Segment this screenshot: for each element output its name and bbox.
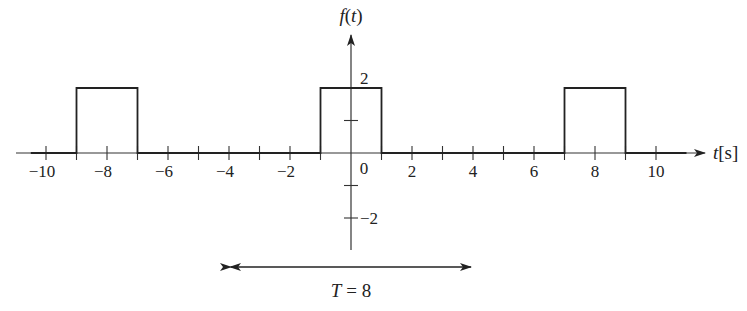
x-axis-label: t[s] <box>713 142 738 163</box>
x-tick-label: 10 <box>648 162 665 181</box>
x-axis-ticks: −10−8−6−4−22468100 <box>29 146 665 181</box>
x-tick-label: 8 <box>591 162 600 181</box>
origin-label: 0 <box>360 159 369 178</box>
x-tick-label: −10 <box>29 162 56 181</box>
x-tick-label: 4 <box>469 162 478 181</box>
x-tick-label: 6 <box>530 162 539 181</box>
y-axis-ticks: 2−2 <box>344 69 378 228</box>
x-tick-label: −2 <box>277 162 295 181</box>
pulse-train-chart: −10−8−6−4−22468100 2−2 T = 8 t[s] f(t) <box>0 0 747 311</box>
y-tick-label: 2 <box>360 69 369 88</box>
x-tick-label: −8 <box>94 162 112 181</box>
period-label: T = 8 <box>331 280 371 301</box>
x-tick-label: 2 <box>408 162 417 181</box>
signal-pulses <box>31 88 687 153</box>
y-tick-label: −2 <box>360 209 378 228</box>
period-annotation: T = 8 <box>229 263 471 301</box>
y-axis-label: f(t) <box>339 5 362 27</box>
pulse-train-line <box>31 88 687 153</box>
x-tick-label: −4 <box>216 162 235 181</box>
x-tick-label: −6 <box>155 162 173 181</box>
